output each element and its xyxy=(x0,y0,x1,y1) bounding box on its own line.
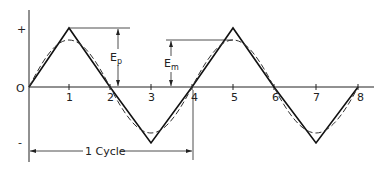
y-zero-label: O xyxy=(16,82,25,95)
y-minus-label: - xyxy=(18,136,22,149)
x-label-5: 5 xyxy=(231,91,238,104)
x-label-7: 7 xyxy=(313,91,320,104)
em-arrow-down-icon xyxy=(169,80,173,86)
ep-arrow-down-icon xyxy=(116,80,120,86)
cycle-arrow-left-icon xyxy=(30,149,36,153)
cycle-label: 1 Cycle xyxy=(85,145,126,158)
triangle-wave xyxy=(29,28,358,143)
x-label-8: 8 xyxy=(357,91,364,104)
x-label-3: 3 xyxy=(148,91,155,104)
x-label-4: 4 xyxy=(191,91,198,104)
waveform-diagram: + O - 1 2 3 4 5 6 7 8 Ep Em 1 Cycle xyxy=(0,0,387,172)
y-plus-label: + xyxy=(17,23,26,36)
ep-arrow-up-icon xyxy=(116,29,120,35)
cycle-arrow-right-icon xyxy=(186,149,192,153)
x-label-1: 1 xyxy=(66,91,73,104)
em-arrow-up-icon xyxy=(169,41,173,47)
